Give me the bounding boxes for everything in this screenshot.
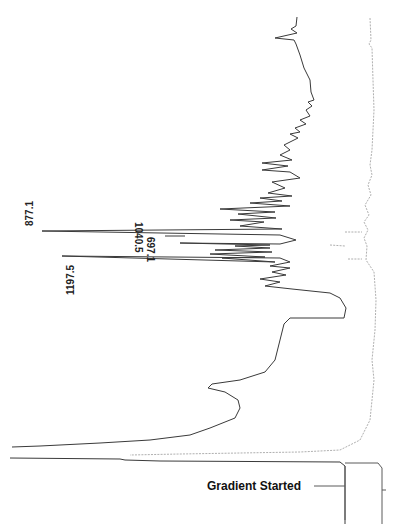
chromatogram-chart: 877.1 1197.5 1040.5 697.1 Gradient Start… (0, 0, 393, 524)
peak-label-697: 697.1 (145, 237, 156, 262)
gradient-started-label: Gradient Started (207, 479, 301, 493)
gradient-step-line (345, 463, 386, 524)
main-trace[interactable] (12, 17, 346, 447)
peak-label-877: 877.1 (24, 201, 35, 226)
peak-label-1040: 1040.5 (133, 222, 144, 253)
peak-label-1197: 1197.5 (65, 265, 76, 295)
secondary-noise (330, 232, 362, 259)
